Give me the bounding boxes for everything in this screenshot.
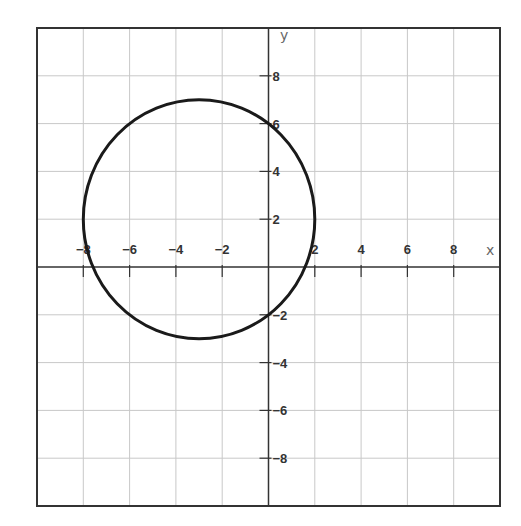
x-tick-label: 8 — [450, 242, 457, 257]
x-tick-label: 6 — [404, 242, 411, 257]
y-axis-label: y — [280, 27, 288, 43]
axes — [37, 28, 500, 506]
y-tick-label: 8 — [273, 69, 280, 84]
y-tick-label: 2 — [273, 212, 280, 227]
x-tick-label: −6 — [122, 242, 137, 257]
x-tick-label: −4 — [168, 242, 184, 257]
y-tick-label: 4 — [273, 164, 281, 179]
coordinate-plane: −8−6−4−224688642−2−4−6−8 x y — [0, 0, 521, 526]
x-axis-label: x — [486, 242, 494, 258]
x-tick-label: −2 — [215, 242, 230, 257]
x-tick-label: 4 — [357, 242, 365, 257]
y-tick-label: −8 — [273, 451, 288, 466]
y-tick-label: −6 — [273, 403, 288, 418]
y-tick-label: −4 — [273, 356, 289, 371]
